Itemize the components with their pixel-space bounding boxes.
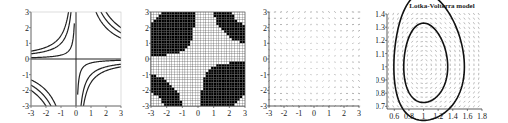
x-tick-label: 2 [227, 109, 231, 118]
y-tick-label: -2 [22, 86, 29, 95]
x-tick-label: 3 [243, 109, 247, 118]
x-tick-label: 0 [74, 109, 78, 118]
contour-plot: -3-2-101233210-1-2-3 [0, 0, 128, 123]
vector-arrows [268, 11, 360, 107]
y-tick-label: -2 [260, 86, 267, 95]
x-tick-label: 0 [196, 109, 200, 118]
y-tick-label: 2 [25, 24, 29, 33]
lotka-volterra-plot: Lotka-Volterra model 0.60.811.21.41.61.8… [376, 0, 508, 123]
x-tick-label: 0.6 [389, 112, 399, 121]
grid-plot-panel: -3-2-101233210-1-2-3 [128, 0, 252, 123]
y-tick-label: 1.4 [376, 10, 385, 19]
x-tick-label: 1.4 [448, 112, 458, 121]
x-tick-label: 1 [327, 109, 331, 118]
y-tick-label: 2 [145, 24, 149, 33]
x-tick-label: -2 [281, 109, 288, 118]
inner-orbit [404, 23, 448, 102]
y-tick-label: 0.7 [376, 102, 385, 111]
x-tick-label: 3 [119, 109, 123, 118]
y-tick-label: 1 [145, 39, 149, 48]
x-tick-label: -1 [58, 109, 65, 118]
grid-cells [151, 12, 245, 106]
x-tick-label: 2 [342, 109, 346, 118]
y-tick-label: 1 [263, 39, 267, 48]
y-tick-label: -1 [22, 71, 29, 80]
x-tick-label: -1 [296, 109, 303, 118]
x-tick-label: 3 [357, 109, 361, 118]
binary-grid-plot: -3-2-101233210-1-2-3 [128, 0, 252, 123]
y-tick-label: 1 [381, 63, 385, 72]
y-tick-label: -1 [260, 71, 267, 80]
y-tick-label: 0 [145, 55, 149, 64]
y-tick-label: 1 [25, 39, 29, 48]
y-tick-label: -3 [142, 102, 149, 111]
y-tick-label: 0 [25, 55, 29, 64]
y-tick-label: 2 [263, 24, 267, 33]
x-tick-label: -1 [179, 109, 186, 118]
x-tick-label: -2 [43, 109, 50, 118]
x-tick-label: 1.8 [477, 112, 487, 121]
vector-field-plot: -3-2-101233210-1-2-3 [252, 0, 376, 123]
orbits [394, 0, 465, 120]
y-tick-label: 3 [25, 8, 29, 17]
y-tick-label: 3 [145, 8, 149, 17]
y-tick-label: -1 [142, 71, 149, 80]
lotka-volterra-panel: Lotka-Volterra model 0.60.811.21.41.61.8… [376, 0, 508, 123]
contour-lines [28, 8, 125, 111]
y-tick-label: 0.8 [376, 89, 385, 98]
x-tick-label: 1 [212, 109, 216, 118]
y-tick-label: 1.3 [376, 23, 385, 32]
x-tick-label: 2 [104, 109, 108, 118]
y-tick-label: -3 [260, 102, 267, 111]
x-tick-label: -2 [163, 109, 170, 118]
x-tick-label: 1 [89, 109, 93, 118]
vector-field-panel: -3-2-101233210-1-2-3 [252, 0, 376, 123]
y-tick-label: 1.1 [376, 50, 385, 59]
y-tick-label: -2 [142, 86, 149, 95]
x-tick-label: 0 [312, 109, 316, 118]
contour-plot-panel: -3-2-101233210-1-2-3 [0, 0, 128, 123]
y-tick-label: -3 [22, 102, 29, 111]
x-tick-label: 1.6 [462, 112, 472, 121]
y-tick-label: 3 [263, 8, 267, 17]
y-tick-label: 0 [263, 55, 267, 64]
y-tick-label: 0.9 [376, 76, 385, 85]
y-tick-label: 1.2 [376, 36, 385, 45]
